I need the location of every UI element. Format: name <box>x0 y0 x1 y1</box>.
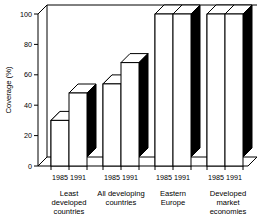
svg-text:countries: countries <box>106 198 137 207</box>
group-label-eastern-europe: Eastern Europe <box>160 189 186 207</box>
x-label-g4-1991: 1991 <box>226 173 242 182</box>
x-label-g3-1991: 1991 <box>174 173 190 182</box>
svg-text:All developing: All developing <box>97 189 144 198</box>
x-label-g1-1991: 1991 <box>70 173 86 182</box>
bar-g4-1991 <box>225 5 252 166</box>
y-tick-20: 20 <box>24 131 32 140</box>
svg-text:Developed: Developed <box>210 189 246 198</box>
x-label-g1-1985: 1985 <box>52 173 68 182</box>
svg-text:Eastern: Eastern <box>160 189 186 198</box>
y-tick-100: 100 <box>20 10 32 19</box>
y-axis <box>34 14 38 166</box>
svg-text:countries: countries <box>54 207 85 216</box>
group-label-developed-market-economies: Developed market economies <box>210 189 247 216</box>
y-tick-0: 0 <box>28 162 32 171</box>
bar-g2-1991 <box>121 54 148 166</box>
bar-g3-1991 <box>173 5 200 166</box>
x-label-g2-1991: 1991 <box>122 173 138 182</box>
bar-g1-1991 <box>69 84 96 166</box>
svg-text:Least: Least <box>60 189 79 198</box>
group-label-all-developing-countries: All developing countries <box>97 189 144 207</box>
y-tick-60: 60 <box>24 70 32 79</box>
svg-text:economies: economies <box>210 207 247 216</box>
y-axis-title: Coverage (%) <box>4 66 13 113</box>
x-label-g3-1985: 1985 <box>156 173 172 182</box>
svg-text:Europe: Europe <box>161 198 186 207</box>
svg-text:market: market <box>216 198 240 207</box>
y-tick-80: 80 <box>24 40 32 49</box>
y-tick-40: 40 <box>24 101 32 110</box>
bar-chart: Coverage (%) 100 80 60 40 20 0 <box>0 0 266 224</box>
svg-text:developed: developed <box>51 198 86 207</box>
x-label-g4-1985: 1985 <box>208 173 224 182</box>
x-axis-ticks <box>51 166 243 170</box>
group-label-least-developed-countries: Least developed countries <box>51 189 86 216</box>
chart-container: Coverage (%) 100 80 60 40 20 0 <box>0 0 266 224</box>
x-label-g2-1985: 1985 <box>104 173 120 182</box>
